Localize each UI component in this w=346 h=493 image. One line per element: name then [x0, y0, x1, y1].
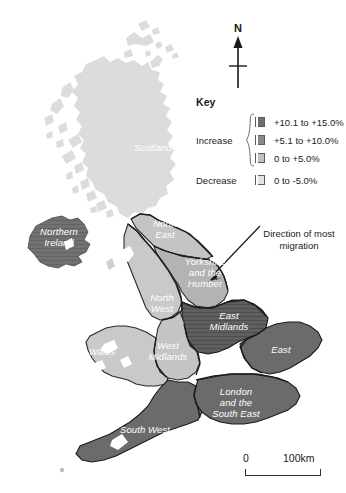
legend-brace-cell-3 — [246, 149, 255, 167]
legend-brace-cell-4 — [246, 171, 255, 189]
legend-row-decrease[interactable]: Decrease 0 to -5.0% — [196, 171, 346, 189]
region-south-west — [76, 380, 202, 462]
legend-brace-cell — [246, 113, 255, 131]
migration-direction-label: Direction of most migration — [253, 228, 345, 252]
legend-group-label-decrease: Decrease — [196, 175, 246, 186]
legend-brace-cell-2 — [246, 131, 255, 149]
scale-bar: 0 100km — [243, 452, 339, 486]
legend-swatch-decrease — [255, 175, 265, 185]
legend-range-increase-high: +10.1 to +15.0% — [274, 117, 344, 128]
region-london-and-the-south-east — [194, 374, 300, 424]
isles-of-scilly — [60, 468, 64, 472]
scale-bar-max-label: 100km — [283, 452, 315, 464]
north-arrow-label: N — [218, 22, 258, 34]
legend-title: Key — [196, 96, 346, 108]
legend-swatch-cell-4 — [255, 175, 274, 185]
legend-rows: +10.1 to +15.0% Increase +5.1 to +10.0% — [196, 113, 346, 189]
legend-swatch-increase-mid — [255, 135, 265, 145]
legend-row-increase-mid[interactable]: Increase +5.1 to +10.0% — [196, 131, 346, 149]
region-scotland — [44, 20, 179, 218]
legend-swatch-increase-high — [255, 117, 265, 127]
legend-swatch-cell-3 — [255, 153, 274, 163]
legend-swatch-increase-low — [255, 153, 265, 163]
legend-swatch-cell — [255, 117, 274, 127]
scale-bar-rule — [245, 469, 321, 476]
legend-row-increase-low[interactable]: 0 to +5.0% — [196, 149, 346, 167]
legend-range-increase-low: 0 to +5.0% — [274, 153, 320, 164]
legend-range-increase-mid: +5.1 to +10.0% — [274, 135, 338, 146]
legend-swatch-cell-2 — [255, 135, 274, 145]
region-northern-ireland — [28, 216, 90, 268]
scale-bar-labels: 0 100km — [243, 452, 339, 466]
region-isle-of-man — [106, 258, 115, 270]
north-arrow: N — [218, 22, 258, 90]
legend-group-label-increase: Increase — [196, 135, 246, 146]
map-canvas: N Key +10.1 to +15.0% — [0, 0, 346, 493]
scale-bar-zero-label: 0 — [243, 452, 249, 464]
legend-range-decrease: 0 to -5.0% — [274, 175, 317, 186]
legend-row-increase-high[interactable]: +10.1 to +15.0% — [196, 113, 346, 131]
map-legend: Key +10.1 to +15.0% Increase — [196, 96, 346, 189]
